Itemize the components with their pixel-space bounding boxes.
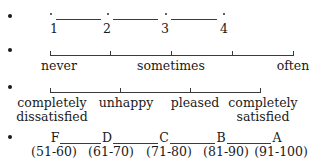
- scale-axis-line: [50, 55, 294, 56]
- scale-label: completely: [17, 96, 86, 110]
- scale-label: 1: [50, 22, 58, 36]
- scale-segment: [171, 19, 217, 20]
- scale-label: satisfied: [236, 110, 289, 124]
- scale-segment: [113, 19, 158, 20]
- scale-tick: [171, 51, 172, 55]
- bullet-icon: [8, 85, 12, 89]
- grade-letter: F: [51, 131, 60, 145]
- scale-label: unhappy: [99, 96, 154, 110]
- grade-range: (91-100): [254, 145, 308, 159]
- scale-label: sometimes: [137, 59, 205, 73]
- grade-letter: A: [272, 131, 281, 145]
- grade-range: (61-70): [88, 145, 134, 159]
- scale-point-marker: [107, 13, 109, 15]
- scale-tick: [293, 51, 294, 55]
- scale-tick: [120, 88, 121, 92]
- scale-point-marker: [50, 13, 52, 15]
- scale-tick: [190, 88, 191, 92]
- scale-tick: [260, 88, 261, 92]
- bullet-icon: [8, 14, 12, 18]
- grade-letter: B: [216, 131, 225, 145]
- scale-tick: [50, 51, 51, 55]
- grade-range: (81-90): [203, 145, 249, 159]
- grade-letter: C: [159, 131, 169, 145]
- scale-label: never: [41, 59, 77, 73]
- grade-letter: D: [102, 131, 112, 145]
- scale-segment: [56, 19, 101, 20]
- scale-label: 3: [161, 22, 169, 36]
- scale-tick: [232, 51, 233, 55]
- bullet-icon: [8, 135, 12, 139]
- scale-label: dissatisfied: [16, 110, 87, 124]
- bullet-icon: [8, 48, 12, 52]
- scale-point-marker: [165, 13, 167, 15]
- scale-tick: [110, 51, 111, 55]
- scale-label: 4: [220, 22, 228, 36]
- scale-axis-line: [50, 92, 261, 93]
- scale-label: often: [277, 59, 310, 73]
- grade-range: (51-60): [31, 145, 77, 159]
- scale-label: pleased: [171, 96, 220, 110]
- scale-label: 2: [103, 22, 111, 36]
- grade-range: (71-80): [146, 145, 192, 159]
- scale-point-marker: [223, 13, 225, 15]
- scale-label: completely: [228, 96, 297, 110]
- scale-tick: [50, 88, 51, 92]
